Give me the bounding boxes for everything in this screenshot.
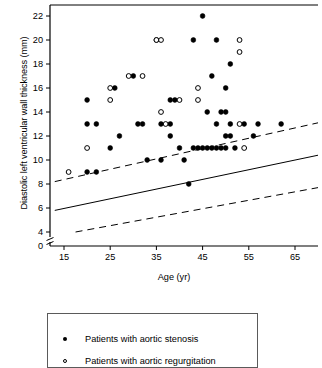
legend-label-stenosis: Patients with aortic stenosis	[85, 334, 198, 344]
filled-circle-icon	[56, 337, 74, 341]
data-point	[94, 122, 99, 127]
data-point	[191, 38, 196, 43]
scatter-plot-svg: 046810121416182022152535455565	[0, 0, 322, 295]
data-point	[85, 122, 90, 127]
data-point	[117, 134, 122, 139]
data-point	[108, 86, 113, 91]
data-point	[159, 110, 164, 115]
y-tick-label: 22	[33, 11, 43, 21]
data-point	[94, 170, 99, 175]
data-point	[177, 98, 182, 103]
y-axis-label: Diastolic left ventricular wall thicknes…	[19, 5, 29, 241]
figure-container: 046810121416182022152535455565 Diastolic…	[0, 0, 322, 368]
y-tick-label: 6	[38, 203, 43, 213]
data-point	[223, 110, 228, 115]
data-point	[85, 170, 90, 175]
data-point	[108, 98, 113, 103]
data-point	[223, 134, 228, 139]
data-point	[136, 122, 141, 127]
data-point	[182, 158, 187, 163]
data-point	[214, 38, 219, 43]
legend-item-stenosis: Patients with aortic stenosis	[48, 328, 257, 350]
y-tick-label: 20	[33, 35, 43, 45]
data-point	[237, 50, 242, 55]
x-axis-label: Age (yr)	[50, 272, 298, 282]
data-point	[108, 146, 113, 151]
data-point	[237, 122, 242, 127]
data-point	[233, 146, 238, 151]
data-point	[219, 110, 224, 115]
y-tick-label: 4	[38, 227, 43, 237]
data-point	[159, 38, 164, 43]
data-point	[209, 146, 214, 151]
data-point	[237, 38, 242, 43]
data-point	[223, 146, 228, 151]
data-point	[159, 122, 164, 127]
y-tick-label: 14	[33, 107, 43, 117]
data-point	[140, 74, 145, 79]
data-point	[191, 146, 196, 151]
x-tick-label: 35	[151, 252, 161, 262]
legend-item-regurgitation: Patients with aortic regurgitation	[48, 350, 257, 368]
legend-label-regurgitation: Patients with aortic regurgitation	[85, 356, 216, 366]
data-point	[256, 122, 261, 127]
data-point	[200, 14, 205, 19]
chart-plot-area: 046810121416182022152535455565 Diastolic…	[0, 0, 322, 295]
data-point	[168, 98, 173, 103]
x-tick-label: 45	[197, 252, 207, 262]
y-tick-label: 18	[33, 59, 43, 69]
data-point	[145, 158, 150, 163]
data-point	[223, 86, 228, 91]
data-point	[196, 98, 201, 103]
data-point	[85, 98, 90, 103]
data-point	[196, 86, 201, 91]
data-point	[242, 122, 247, 127]
data-point	[196, 146, 201, 151]
y-tick-label: 16	[33, 83, 43, 93]
data-point	[154, 38, 159, 43]
data-point	[112, 86, 117, 91]
open-circle-icon	[56, 359, 74, 363]
data-point	[163, 122, 168, 127]
chart-legend: Patients with aortic stenosis Patients w…	[47, 313, 258, 368]
data-point	[205, 146, 210, 151]
data-point	[228, 122, 233, 127]
y-tick-label: 0	[38, 241, 43, 251]
data-point	[177, 146, 182, 151]
data-point	[219, 146, 224, 151]
data-point	[242, 146, 247, 151]
data-point	[66, 170, 71, 175]
data-point	[228, 134, 233, 139]
data-point	[126, 74, 131, 79]
data-point	[168, 134, 173, 139]
data-point	[214, 122, 219, 127]
x-tick-label: 65	[290, 252, 300, 262]
data-point	[172, 98, 177, 103]
data-point	[209, 74, 214, 79]
data-point	[200, 146, 205, 151]
data-point	[168, 122, 173, 127]
series-stenosis-points	[85, 14, 284, 187]
y-tick-label: 12	[33, 131, 43, 141]
data-point	[159, 158, 164, 163]
data-point	[214, 146, 219, 151]
data-point	[228, 62, 233, 67]
y-tick-label: 10	[33, 155, 43, 165]
data-point	[279, 122, 284, 127]
y-tick-label: 8	[38, 179, 43, 189]
data-point	[251, 134, 256, 139]
x-tick-label: 55	[244, 252, 254, 262]
lower-prediction-limit	[76, 188, 318, 232]
data-point	[85, 146, 90, 151]
series-regurgitation-points	[66, 38, 246, 175]
data-point	[186, 182, 191, 187]
x-tick-label: 15	[59, 252, 69, 262]
data-point	[131, 74, 136, 79]
data-point	[140, 122, 145, 127]
data-point	[205, 110, 210, 115]
x-tick-label: 25	[105, 252, 115, 262]
